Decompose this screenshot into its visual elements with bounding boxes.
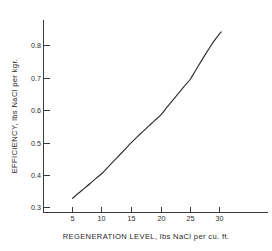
x-tick-label-1: 10: [98, 214, 106, 223]
plot-svg: 0.3 0.4 0.5 0.6 0.7 0.8 5 10 15 20 25 30: [0, 0, 272, 251]
x-tick-label-2: 15: [128, 214, 136, 223]
x-tick-label-3: 20: [158, 214, 166, 223]
x-tick-label-0: 5: [71, 214, 75, 223]
y-tick-label-5: 0.8: [31, 41, 41, 50]
chart-figure: 0.3 0.4 0.5 0.6 0.7 0.8 5 10 15 20 25 30: [0, 0, 272, 251]
x-axis-ticks: [73, 207, 220, 213]
efficiency-curve: [73, 32, 222, 199]
y-tick-label-0: 0.3: [31, 203, 41, 212]
y-tick-label-4: 0.7: [31, 74, 41, 83]
x-axis-tick-labels: 5 10 15 20 25 30: [71, 214, 224, 223]
y-axis-tick-labels: 0.3 0.4 0.5 0.6 0.7 0.8: [31, 41, 41, 212]
y-tick-label-1: 0.4: [31, 171, 41, 180]
y-axis-title: EFFICIENCY, lbs NaCl per kgr.: [10, 59, 19, 174]
x-axis-title: REGENERATION LEVEL, lbs NaCl per cu. ft.: [63, 232, 230, 241]
x-tick-label-5: 30: [216, 214, 224, 223]
y-tick-label-3: 0.6: [31, 106, 41, 115]
y-axis-ticks: [44, 46, 50, 208]
y-tick-label-2: 0.5: [31, 139, 41, 148]
x-tick-label-4: 25: [187, 214, 195, 223]
